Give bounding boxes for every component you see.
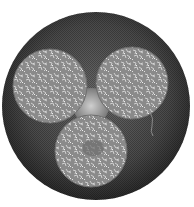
inner-circle-top-left xyxy=(13,49,87,123)
inner-circle-top-right xyxy=(96,47,168,119)
micrograph-image xyxy=(0,0,194,207)
inner-circle-bottom xyxy=(55,115,127,187)
